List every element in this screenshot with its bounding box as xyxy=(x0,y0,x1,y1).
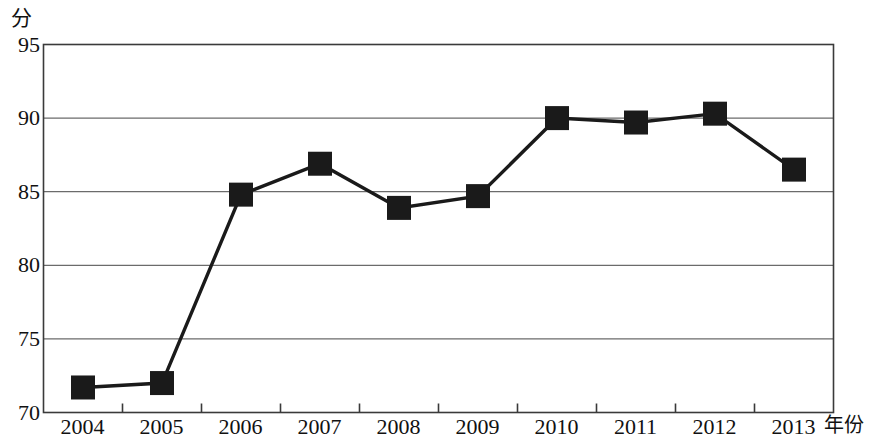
data-point-marker xyxy=(229,183,253,207)
data-point-marker xyxy=(782,158,806,182)
x-axis-ticks xyxy=(123,404,755,413)
plot-area xyxy=(0,0,877,442)
data-point-marker xyxy=(150,371,174,395)
data-point-marker xyxy=(545,106,569,130)
data-point-marker xyxy=(624,111,648,135)
data-line xyxy=(83,114,794,388)
data-markers xyxy=(71,102,806,400)
gridlines xyxy=(44,118,834,339)
data-point-marker xyxy=(308,152,332,176)
data-point-marker xyxy=(703,102,727,126)
data-point-marker xyxy=(387,196,411,220)
data-point-marker xyxy=(466,184,490,208)
line-chart: 分 年份 707580859095 2004200520062007200820… xyxy=(0,0,877,442)
plot-frame xyxy=(44,45,834,413)
data-point-marker xyxy=(71,375,95,399)
